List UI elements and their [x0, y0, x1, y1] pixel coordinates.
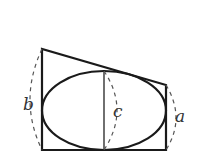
trapezoid-ellipse-diagram: b c a: [0, 0, 202, 162]
label-c: c: [113, 101, 123, 121]
label-a: a: [175, 106, 185, 126]
label-b: b: [23, 94, 34, 114]
